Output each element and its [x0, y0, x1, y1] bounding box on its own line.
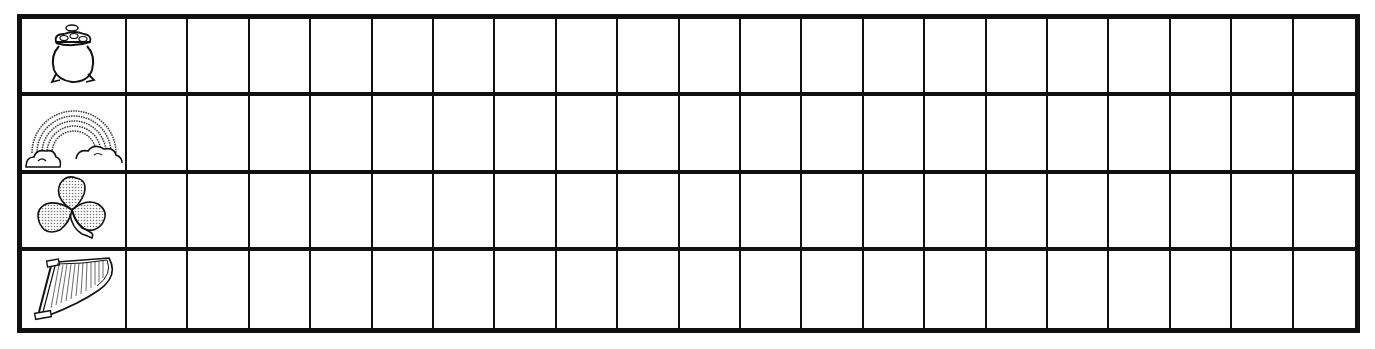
tally-cell — [250, 19, 311, 96]
tally-cell — [250, 251, 311, 328]
tally-cell — [557, 96, 618, 173]
tally-cell — [618, 96, 679, 173]
shamrock-icon — [32, 174, 116, 246]
tally-cell — [1171, 251, 1232, 328]
rainbow-icon — [24, 97, 124, 169]
tally-cell — [925, 96, 986, 173]
tally-cell — [1109, 19, 1170, 96]
tally-cell — [741, 19, 802, 96]
tally-cell — [1232, 96, 1293, 173]
tally-cell — [1294, 174, 1355, 251]
tally-cell — [188, 19, 249, 96]
tally-cell — [802, 251, 863, 328]
row-icon-cell — [22, 19, 127, 96]
tally-cell — [680, 96, 741, 173]
tally-cell — [127, 19, 188, 96]
tally-cell — [680, 19, 741, 96]
tally-cell — [1048, 251, 1109, 328]
tally-cell — [434, 251, 495, 328]
tally-cell — [188, 96, 249, 173]
tally-cell — [1232, 19, 1293, 96]
tally-cell — [1109, 174, 1170, 251]
row-icon-cell — [22, 174, 127, 251]
tally-cell — [864, 96, 925, 173]
tally-cell — [495, 251, 556, 328]
tally-cell — [987, 251, 1048, 328]
tally-cell — [1109, 96, 1170, 173]
tally-cell — [618, 19, 679, 96]
tally-cell — [434, 174, 495, 251]
tally-cell — [680, 174, 741, 251]
tally-cell — [127, 251, 188, 328]
tally-cell — [1232, 174, 1293, 251]
tally-cell — [373, 19, 434, 96]
tally-cell — [373, 174, 434, 251]
tally-cell — [557, 251, 618, 328]
tally-cell — [373, 96, 434, 173]
tally-cell — [250, 96, 311, 173]
tally-cell — [864, 174, 925, 251]
tally-cell — [618, 251, 679, 328]
tally-cell — [188, 174, 249, 251]
tally-cell — [1232, 251, 1293, 328]
tally-cell — [1294, 96, 1355, 173]
tally-cell — [987, 19, 1048, 96]
tally-cell — [741, 174, 802, 251]
tally-cell — [864, 19, 925, 96]
tally-cell — [188, 251, 249, 328]
row-icon-cell — [22, 96, 127, 173]
tally-cell — [1171, 96, 1232, 173]
tally-cell — [1294, 251, 1355, 328]
tally-cell — [557, 19, 618, 96]
tally-cell — [987, 96, 1048, 173]
tally-cell — [925, 174, 986, 251]
tally-cell — [802, 19, 863, 96]
tally-cell — [127, 96, 188, 173]
tally-cell — [557, 174, 618, 251]
tally-cell — [925, 251, 986, 328]
tally-cell — [741, 251, 802, 328]
tally-cell — [495, 96, 556, 173]
pot-of-gold-icon — [44, 22, 104, 90]
tally-cell — [311, 251, 372, 328]
tally-cell — [311, 19, 372, 96]
tally-cell — [373, 251, 434, 328]
tally-cell — [864, 251, 925, 328]
harp-icon — [29, 256, 119, 322]
tally-cell — [311, 96, 372, 173]
tally-cell — [1171, 174, 1232, 251]
tally-grid — [17, 14, 1360, 333]
tally-cell — [802, 96, 863, 173]
tally-cell — [495, 19, 556, 96]
tally-cell — [250, 174, 311, 251]
tally-cell — [1048, 96, 1109, 173]
tally-cell — [1294, 19, 1355, 96]
tally-cell — [618, 174, 679, 251]
row-icon-cell — [22, 251, 127, 328]
tally-cell — [434, 96, 495, 173]
tally-cell — [987, 174, 1048, 251]
tally-cell — [802, 174, 863, 251]
tally-cell — [741, 96, 802, 173]
tally-cell — [434, 19, 495, 96]
tally-cell — [495, 174, 556, 251]
tally-cell — [1048, 174, 1109, 251]
tally-cell — [680, 251, 741, 328]
tally-cell — [925, 19, 986, 96]
tally-cell — [1048, 19, 1109, 96]
tally-cell — [1109, 251, 1170, 328]
tally-cell — [1171, 19, 1232, 96]
tally-cell — [127, 174, 188, 251]
tally-cell — [311, 174, 372, 251]
